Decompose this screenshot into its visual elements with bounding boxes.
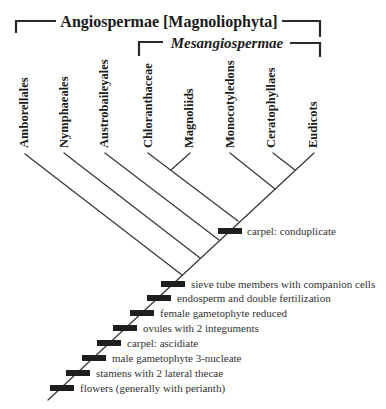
branch-austrobaileyales — [105, 153, 219, 240]
branch-magnoliids — [171, 153, 190, 170]
trait-label: carpel: ascidiate — [127, 337, 198, 349]
trait-label: male gametophyte 3-nucleate — [112, 352, 242, 364]
trait-label: stamens with 2 lateral thecae — [96, 367, 223, 379]
trait-bar — [97, 340, 121, 346]
trait-label: flowers (generally with perianth) — [80, 382, 225, 395]
trait-stamens: stamens with 2 lateral thecae — [66, 367, 223, 379]
taxon-label-nymphaeales: Nymphaeales — [57, 76, 71, 148]
mesangiospermae-bracket-left — [139, 42, 163, 56]
trait-bar — [130, 310, 154, 316]
taxon-label-ceratophyllaes: Ceratophyllaes — [264, 67, 278, 148]
mesangiospermae-bracket: Mesangiospermae — [139, 35, 320, 57]
angiosperm-phylogeny-diagram: Angiospermae [Magnoliophyta] Mesangiospe… — [0, 0, 386, 409]
taxon-label-austrobaileyales: Austrobaileyales — [97, 59, 111, 148]
trait-label: female gametophyte reduced — [160, 307, 288, 319]
trait-endosperm: endosperm and double fertilization — [147, 292, 331, 304]
trait-bar — [113, 325, 137, 331]
trait-sieve-tube-members: sieve tube members with companion cells — [161, 278, 375, 290]
taxon-label-monocotyledons: Monocotyledons — [223, 60, 237, 148]
trait-bar — [50, 385, 74, 391]
taxon-label-magnoliids: Magnoliids — [182, 88, 196, 148]
trait-bar — [218, 228, 242, 234]
taxon-label-chloranthaceae: Chloranthaceae — [141, 63, 155, 148]
trait-carpel-conduplicate: carpel: conduplicate — [218, 225, 336, 237]
mesangiospermae-title: Mesangiospermae — [170, 35, 284, 51]
trait-ovules: ovules with 2 integuments — [113, 322, 259, 334]
trait-bar — [147, 295, 171, 301]
trait-label: endosperm and double fertilization — [177, 292, 331, 304]
trait-bar — [161, 281, 185, 287]
trait-bar — [82, 355, 106, 361]
angiospermae-bracket-left — [16, 21, 56, 33]
taxon-label-amborellales: Amborellales — [17, 77, 31, 148]
trait-male-gametophyte: male gametophyte 3-nucleate — [82, 352, 242, 364]
trait-label: ovules with 2 integuments — [143, 322, 259, 334]
trait-female-gametophyte: female gametophyte reduced — [130, 307, 288, 319]
trait-bar — [66, 370, 90, 376]
trait-markers: carpel: conduplicate sieve tube members … — [50, 225, 375, 395]
branch-chloranthaceae — [148, 153, 238, 221]
branch-amborellales — [25, 154, 182, 275]
branch-monocotyledons — [230, 153, 275, 189]
taxon-label-eudicots: Eudicots — [306, 101, 320, 148]
trait-label: carpel: conduplicate — [247, 225, 336, 237]
trait-carpel-ascidiate: carpel: ascidiate — [97, 337, 198, 349]
angiospermae-bracket: Angiospermae [Magnoliophyta] — [16, 13, 320, 37]
trait-flowers: flowers (generally with perianth) — [50, 382, 225, 395]
taxon-labels: Amborellales Nymphaeales Austrobaileyale… — [17, 59, 320, 148]
mesangiospermae-bracket-right — [290, 43, 320, 57]
angiospermae-bracket-right — [282, 21, 320, 37]
trait-label: sieve tube members with companion cells — [191, 278, 375, 290]
branch-ceratophyllaes — [273, 153, 295, 170]
angiospermae-title: Angiospermae [Magnoliophyta] — [60, 13, 277, 31]
branch-nymphaeales — [64, 153, 200, 258]
